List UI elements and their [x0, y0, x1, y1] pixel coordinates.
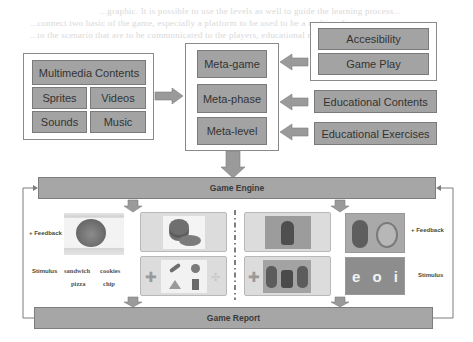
food-options-panel — [161, 260, 207, 293]
left-stimulus-label: Stimulus — [32, 268, 57, 274]
right-feedback-label: + Feedback — [411, 227, 444, 233]
meta-game-box: Meta-game — [197, 50, 267, 78]
dpad-icon: ✚ — [145, 271, 158, 284]
lion-face — [76, 219, 106, 247]
ds-bottom-screen-right: ✚ — [244, 256, 331, 296]
food-word-pizza: pizza — [71, 280, 85, 287]
lion-feedback-image — [64, 213, 124, 255]
right-stimulus-label: Stimulus — [418, 272, 443, 278]
option-character-1 — [266, 266, 277, 288]
vowels-stimulus-image: e o i — [345, 257, 405, 295]
chips-icon — [192, 279, 199, 290]
vowel-e: e — [352, 268, 360, 285]
arrow-down-icon — [331, 200, 349, 212]
ds-top-screen-left — [140, 212, 227, 252]
accessibility-box: Accesibility — [318, 28, 429, 50]
game-play-box: Game Play — [318, 53, 429, 75]
loop-line-left — [23, 188, 35, 318]
food-word-sandwich: sandwich — [64, 267, 90, 274]
arrow-left-icon — [280, 124, 308, 140]
food-word-chip: chip — [103, 280, 115, 287]
loop-line-right — [433, 188, 453, 318]
arrow-right-icon — [155, 88, 183, 104]
dpad-icon: ✚ — [248, 271, 260, 284]
meta-phase-box: Meta-phase — [197, 84, 267, 113]
sandwich-icon — [169, 263, 181, 273]
ds-top-screen-right — [244, 212, 331, 252]
vowel-i: i — [394, 268, 398, 285]
coins-image — [163, 216, 205, 249]
arrow-down-icon — [221, 151, 245, 178]
food-word-cookies: cookies — [100, 267, 120, 274]
character-dancing-1 — [352, 220, 368, 248]
game-engine-bar: Game Engine — [38, 177, 436, 199]
arrow-down-icon — [124, 200, 142, 212]
coin — [179, 235, 201, 246]
character-figure — [281, 221, 294, 245]
character-scene — [265, 216, 311, 249]
game-report-bar: Game Report — [34, 307, 433, 329]
arrow-down-icon — [331, 297, 349, 307]
vowel-o: o — [372, 268, 381, 285]
coin-stack — [169, 219, 189, 235]
character-dancing-2 — [376, 222, 398, 248]
left-feedback-label: + Feedback — [29, 230, 62, 236]
arrow-down-icon — [124, 297, 142, 307]
educational-contents-box: Educational Contents — [314, 90, 437, 113]
ds-bottom-screen-left: ✚ ✣ — [140, 256, 227, 296]
meta-level-box: Meta-level — [197, 117, 267, 145]
educational-exercises-box: Educational Exercises — [314, 122, 437, 145]
arrow-left-icon — [280, 54, 308, 70]
character-options-panel — [263, 260, 311, 293]
arrowhead-right-icon — [436, 185, 441, 191]
characters-feedback-image — [345, 213, 405, 253]
pizza-icon — [169, 280, 181, 289]
cookies-icon — [191, 264, 200, 273]
buttons-icon: ✣ — [211, 271, 220, 284]
arrow-left-icon — [280, 94, 308, 110]
option-character-3 — [297, 266, 308, 288]
option-character-2 — [281, 270, 293, 288]
